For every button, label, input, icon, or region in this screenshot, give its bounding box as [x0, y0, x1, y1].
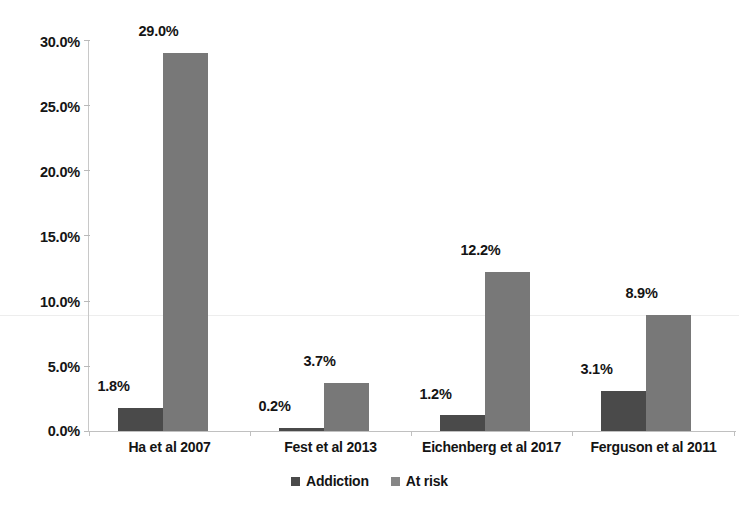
legend-label-atrisk: At risk [406, 474, 448, 488]
value-label-addiction-1: 0.2% [252, 399, 297, 414]
bar-addiction-3[interactable] [601, 391, 646, 431]
legend-swatch-icon-addiction [291, 477, 300, 486]
bar-atrisk-0[interactable] [163, 53, 208, 431]
bar-chart: 30.0% 25.0% 20.0% 15.0% 10.0% 5.0% 0.0% … [0, 0, 739, 513]
plot-area [89, 40, 736, 431]
x-tick-mark-3 [572, 431, 573, 436]
bar-addiction-2[interactable] [440, 415, 485, 431]
chart-legend: Addiction At risk [0, 474, 739, 488]
value-label-addiction-0: 1.8% [91, 379, 136, 394]
bar-atrisk-2[interactable] [485, 272, 530, 431]
x-tick-mark-1 [250, 431, 251, 436]
bar-addiction-0[interactable] [118, 408, 163, 431]
value-label-addiction-3: 3.1% [574, 362, 619, 377]
value-label-addiction-2: 1.2% [413, 387, 458, 402]
x-axis-category-label-2: Eichenberg et al 2017 [411, 440, 572, 454]
x-axis-category-label-3: Ferguson et al 2011 [572, 440, 735, 454]
x-tick-mark-4 [734, 431, 735, 436]
x-axis-category-label-1: Fest et al 2013 [250, 440, 411, 454]
y-tick-label-10: 10.0% [2, 295, 80, 310]
x-tick-mark-2 [411, 431, 412, 436]
bar-atrisk-3[interactable] [646, 315, 691, 431]
y-tick-label-25: 25.0% [2, 100, 80, 115]
y-tick-label-20: 20.0% [2, 165, 80, 180]
y-tick-label-30: 30.0% [2, 35, 80, 50]
value-label-atrisk-1: 3.7% [297, 354, 342, 369]
y-tick-label-15: 15.0% [2, 230, 80, 245]
legend-item-atrisk[interactable]: At risk [391, 474, 448, 488]
value-label-atrisk-3: 8.9% [619, 286, 664, 301]
bar-atrisk-1[interactable] [324, 383, 369, 431]
legend-item-addiction[interactable]: Addiction [291, 474, 369, 488]
y-tick-label-5: 5.0% [2, 360, 80, 375]
x-tick-mark-0 [89, 431, 90, 436]
x-axis-category-label-0: Ha et al 2007 [89, 440, 250, 454]
y-axis: 30.0% 25.0% 20.0% 15.0% 10.0% 5.0% 0.0% [0, 0, 80, 513]
value-label-atrisk-0: 29.0% [136, 24, 181, 39]
value-label-atrisk-2: 12.2% [454, 243, 507, 258]
x-axis-line [88, 431, 736, 432]
legend-swatch-icon-atrisk [391, 477, 400, 486]
y-tick-label-0: 0.0% [2, 424, 80, 439]
legend-label-addiction: Addiction [306, 474, 369, 488]
